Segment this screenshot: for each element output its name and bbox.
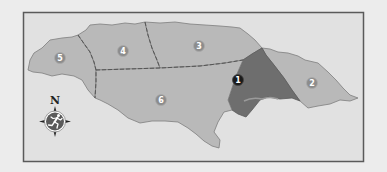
region-marker-4[interactable]: 4 xyxy=(118,46,129,57)
map-figure: 1 2 3 4 5 6 N xyxy=(0,0,387,172)
region-marker-3[interactable]: 3 xyxy=(194,41,205,52)
marker-label-5: 5 xyxy=(57,54,63,63)
region-marker-2[interactable]: 2 xyxy=(307,78,318,89)
marker-label-2: 2 xyxy=(309,79,315,88)
compass-north-label: N xyxy=(50,94,60,107)
region-marker-5[interactable]: 5 xyxy=(55,53,66,64)
marker-label-4: 4 xyxy=(120,47,126,56)
region-marker-1[interactable]: 1 xyxy=(233,75,244,86)
marker-label-3: 3 xyxy=(196,42,202,51)
island-map: 1 2 3 4 5 6 N xyxy=(0,0,387,172)
marker-label-1: 1 xyxy=(235,76,241,85)
marker-label-6: 6 xyxy=(158,96,164,105)
region-marker-6[interactable]: 6 xyxy=(156,95,167,106)
